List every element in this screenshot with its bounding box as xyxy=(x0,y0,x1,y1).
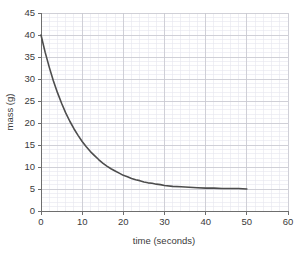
major-gridlines xyxy=(41,13,288,211)
y-tick-label: 20 xyxy=(24,117,35,128)
x-tick-label: 40 xyxy=(200,216,211,227)
y-tick-label: 25 xyxy=(24,95,35,106)
data-series-line xyxy=(41,35,247,189)
axis-tick-marks xyxy=(38,13,289,215)
x-axis-tick-labels: 0102030405060 xyxy=(38,216,293,227)
y-axis-title: mass (g) xyxy=(4,94,15,131)
x-tick-label: 50 xyxy=(242,216,253,227)
y-tick-label: 35 xyxy=(24,51,35,62)
y-tick-label: 5 xyxy=(30,183,35,194)
y-axis-tick-labels: 051015202530354045 xyxy=(24,7,35,216)
chart-figure: 0102030405060 051015202530354045 time (s… xyxy=(0,0,304,256)
x-tick-label: 0 xyxy=(38,216,43,227)
x-tick-label: 10 xyxy=(77,216,88,227)
y-tick-label: 45 xyxy=(24,7,35,18)
y-tick-label: 10 xyxy=(24,161,35,172)
y-tick-label: 30 xyxy=(24,73,35,84)
x-tick-label: 30 xyxy=(159,216,170,227)
y-tick-label: 0 xyxy=(30,205,35,216)
mass-vs-time-line-chart: 0102030405060 051015202530354045 time (s… xyxy=(0,0,304,256)
x-axis-title: time (seconds) xyxy=(133,235,195,246)
data-series-group xyxy=(41,35,247,189)
y-tick-label: 15 xyxy=(24,139,35,150)
x-tick-label: 20 xyxy=(118,216,129,227)
x-tick-label: 60 xyxy=(283,216,294,227)
y-tick-label: 40 xyxy=(24,29,35,40)
